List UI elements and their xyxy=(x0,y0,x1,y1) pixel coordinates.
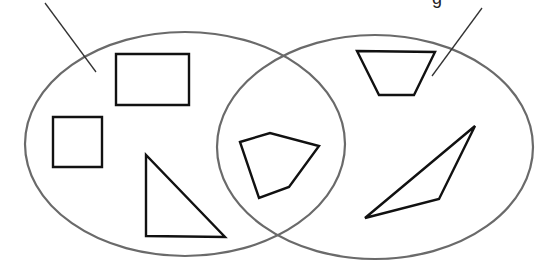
diagram-canvas xyxy=(0,0,545,271)
left-label-pointer-line xyxy=(45,3,96,72)
left-set-ellipse xyxy=(25,32,345,256)
square-shape xyxy=(53,117,102,167)
obtuse-triangle-shape xyxy=(365,126,475,218)
right-set-ellipse xyxy=(217,35,533,259)
rectangle-shape xyxy=(116,54,189,105)
pentagon-shape xyxy=(240,133,319,198)
right-label-pointer-line xyxy=(432,8,482,76)
right-triangle-shape xyxy=(146,155,225,237)
venn-diagram: g xyxy=(0,0,545,271)
trapezoid-shape xyxy=(357,51,435,95)
